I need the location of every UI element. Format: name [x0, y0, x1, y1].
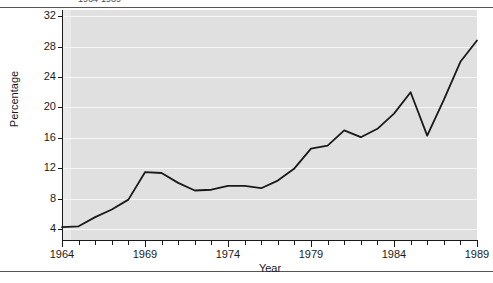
x-tick-1978: [294, 241, 295, 245]
x-tick-1984: [394, 241, 395, 247]
y-tick-label-28: 28: [8, 41, 56, 52]
x-tick-1979: [311, 241, 312, 247]
x-tick-1987: [444, 241, 445, 245]
chart-figure: 1964-1989 32282420161284 196419691974197…: [0, 0, 493, 283]
series-polyline: [62, 40, 477, 227]
y-tick-16: [58, 138, 62, 139]
x-tick-1982: [361, 241, 362, 245]
x-tick-1988: [460, 241, 461, 245]
y-tick-12: [58, 168, 62, 169]
x-tick-1970: [162, 241, 163, 245]
x-tick-1973: [211, 241, 212, 245]
x-tick-1968: [128, 241, 129, 245]
y-axis-label: Percentage: [8, 59, 20, 139]
y-tick-label-group: 32282420161284: [0, 0, 56, 283]
y-tick-20: [58, 107, 62, 108]
x-tick-1969: [145, 241, 146, 247]
y-tick-4: [58, 229, 62, 230]
x-tick-1977: [278, 241, 279, 245]
top-rule: [0, 7, 493, 8]
x-tick-label-1974: 1974: [200, 248, 256, 260]
x-tick-label-1969: 1969: [117, 248, 173, 260]
y-tick-8: [58, 199, 62, 200]
series-line-chart: [62, 10, 477, 240]
x-tick-1966: [95, 241, 96, 245]
y-tick-28: [58, 47, 62, 48]
x-tick-1983: [377, 241, 378, 245]
x-tick-1971: [178, 241, 179, 245]
x-tick-1974: [228, 241, 229, 247]
x-tick-label-1979: 1979: [283, 248, 339, 260]
x-tick-1986: [427, 241, 428, 245]
x-tick-1989: [477, 241, 478, 247]
x-axis-line: [62, 240, 478, 241]
x-tick-label-1984: 1984: [366, 248, 422, 260]
y-tick-label-32: 32: [8, 10, 56, 21]
x-tick-label-1989: 1989: [449, 248, 493, 260]
x-tick-1981: [344, 241, 345, 245]
plot-area: [62, 10, 477, 240]
x-tick-label-1964: 1964: [34, 248, 90, 260]
x-tick-1985: [411, 241, 412, 245]
x-tick-1975: [245, 241, 246, 245]
x-tick-1972: [195, 241, 196, 245]
x-tick-1964: [62, 241, 63, 247]
y-tick-label-8: 8: [8, 193, 56, 204]
x-tick-1980: [328, 241, 329, 245]
y-axis-line: [62, 10, 63, 241]
x-axis-label: Year: [62, 262, 478, 274]
y-tick-32: [58, 16, 62, 17]
chart-title-fragment: 1964-1989: [78, 0, 198, 4]
x-tick-1965: [79, 241, 80, 245]
y-tick-label-12: 12: [8, 162, 56, 173]
x-tick-1976: [261, 241, 262, 245]
y-tick-24: [58, 77, 62, 78]
y-tick-label-4: 4: [8, 223, 56, 234]
x-tick-1967: [112, 241, 113, 245]
